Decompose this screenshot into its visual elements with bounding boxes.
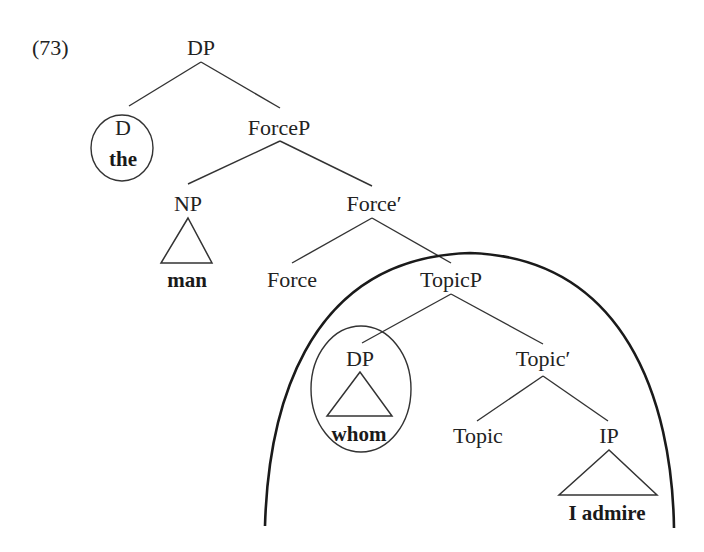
phase-boundary-arc (265, 253, 674, 528)
word-the: the (109, 147, 137, 171)
node-forcep: ForceP (248, 115, 310, 140)
edge-forcep-forcebar (280, 141, 372, 186)
node-d: D (115, 115, 131, 140)
edge-topicp-dp (362, 294, 451, 343)
edge-forcep-np (188, 141, 280, 184)
node-force: Force (267, 267, 317, 292)
edge-topicbar-topic (477, 376, 543, 421)
node-topic: Topic (453, 423, 503, 448)
edge-dp-d (129, 62, 201, 106)
triangle-ip (559, 450, 657, 495)
word-whom: whom (332, 422, 387, 446)
triangle-np (161, 218, 212, 263)
word-i-admire: I admire (568, 501, 645, 525)
syntax-tree-diagram: (73) DP D the ForceP NP man Force′ Force… (0, 0, 704, 552)
edge-topicbar-ip (543, 376, 608, 421)
node-spec-dp: DP (346, 346, 374, 371)
edge-topicp-topicbar (451, 294, 543, 344)
triangle-dp-whom (327, 372, 392, 416)
word-man: man (167, 268, 207, 292)
example-number: (73) (32, 35, 69, 60)
node-topicp: TopicP (420, 267, 482, 292)
node-ip: IP (599, 423, 619, 448)
node-force-bar: Force′ (347, 191, 402, 216)
node-np: NP (174, 191, 202, 216)
node-root-dp: DP (187, 35, 215, 60)
edge-forcebar-force (292, 218, 372, 263)
edge-dp-forcep (201, 62, 280, 108)
node-topic-bar: Topic′ (516, 346, 571, 371)
